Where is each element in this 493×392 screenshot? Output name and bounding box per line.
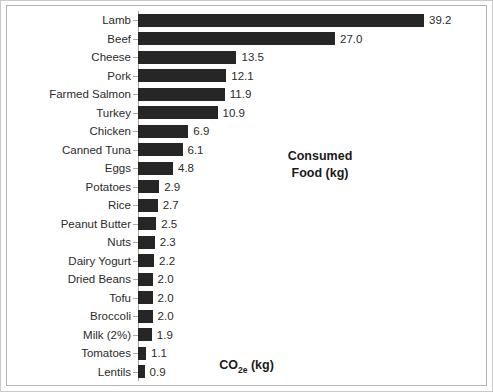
bar [138,51,236,64]
bar-value-label: 2.0 [158,289,174,308]
bar-value-label: 2.5 [161,215,177,234]
bar [138,32,335,45]
bar [138,236,155,249]
plot-area: Lamb39.2Beef27.0Cheese13.5Pork12.1Farmed… [0,0,493,392]
category-label: Canned Tuna [0,141,131,160]
bar [138,180,159,193]
bar-value-label: 2.7 [163,196,179,215]
bar-value-label: 2.3 [160,233,176,252]
category-label: Broccoli [0,307,131,326]
category-label: Eggs [0,159,131,178]
bar [138,143,183,156]
bar-value-label: 12.1 [231,67,253,86]
bar-value-label: 2.0 [158,270,174,289]
category-label: Dairy Yogurt [0,252,131,271]
category-label: Nuts [0,233,131,252]
annotation-line-1: Consumed [258,148,382,165]
x-axis-title-main: CO [219,358,238,372]
category-label: Peanut Butter [0,215,131,234]
bar-value-label: 2.0 [158,307,174,326]
bar [138,254,154,267]
bar-chart: Lamb39.2Beef27.0Cheese13.5Pork12.1Farmed… [0,0,493,392]
bar-value-label: 4.8 [178,159,194,178]
bar-value-label: 10.9 [223,104,245,123]
category-label: Rice [0,196,131,215]
category-label: Dried Beans [0,270,131,289]
bar [138,217,156,230]
category-label: Cheese [0,48,131,67]
bar-value-label: 27.0 [340,30,362,49]
bar [138,328,152,341]
bar [138,199,158,212]
category-label: Milk (2%) [0,326,131,345]
bar-value-label: 39.2 [429,11,451,30]
bar [138,106,218,119]
category-label: Tofu [0,289,131,308]
category-label: Turkey [0,104,131,123]
category-label: Beef [0,30,131,49]
x-axis-title: CO2e (kg) [0,358,493,375]
x-axis-title-tail: (kg) [247,358,273,372]
consumed-food-annotation: Consumed Food (kg) [258,148,382,182]
bar-value-label: 6.9 [193,122,209,141]
bar [138,69,226,82]
category-label: Potatoes [0,178,131,197]
bar-value-label: 6.1 [188,141,204,160]
category-axis-line [138,11,139,381]
bar-value-label: 2.2 [159,252,175,271]
annotation-line-2: Food (kg) [258,165,382,182]
bar-value-label: 1.9 [157,326,173,345]
bar [138,273,153,286]
category-label: Farmed Salmon [0,85,131,104]
category-label: Chicken [0,122,131,141]
category-label: Lamb [0,11,131,30]
x-axis-title-subscript: 2e [238,365,247,375]
bar [138,291,153,304]
bar-value-label: 2.9 [164,178,180,197]
bar [138,162,173,175]
bar [138,310,153,323]
bar [138,88,225,101]
bar [138,14,424,27]
bar [138,125,188,138]
category-label: Pork [0,67,131,86]
bar-value-label: 13.5 [241,48,263,67]
bar-value-label: 11.9 [230,85,252,104]
